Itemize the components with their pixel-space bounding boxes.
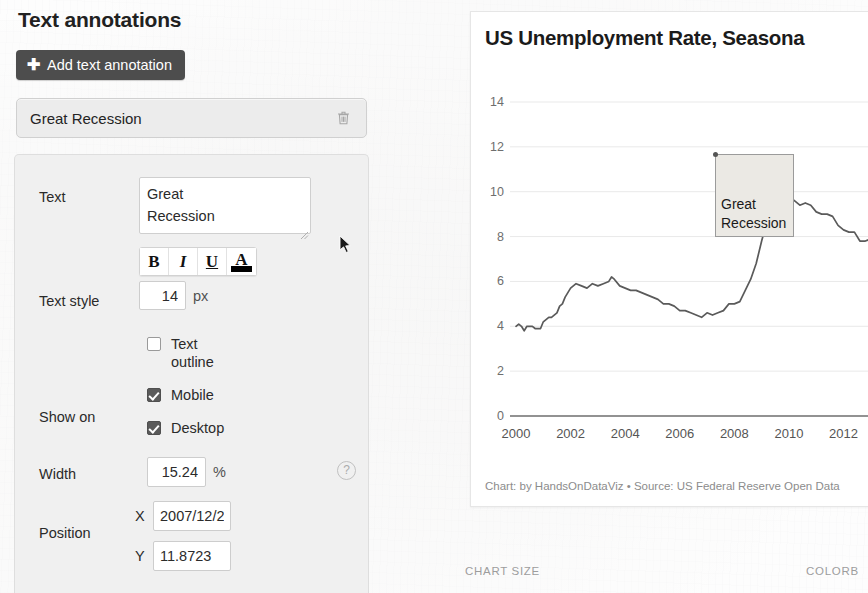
svg-text:10: 10 <box>490 185 504 199</box>
chart-preview-card: US Unemployment Rate, Seasona 0246810121… <box>470 11 868 507</box>
annotation-settings-form: Text Great Recession Text style <box>14 154 369 593</box>
add-text-annotation-button[interactable]: ✚ Add text annotation <box>16 50 185 80</box>
chart-title: US Unemployment Rate, Seasona <box>485 26 804 50</box>
font-size-input[interactable] <box>139 281 186 310</box>
desktop-label: Desktop <box>171 419 224 437</box>
chart-x-tick-labels: 2000200220042006200820102012 <box>502 426 858 441</box>
bold-icon: B <box>148 252 159 272</box>
underline-button[interactable]: U <box>198 248 227 275</box>
chart-gridlines <box>510 102 868 371</box>
width-input[interactable] <box>147 457 206 487</box>
position-label: Position <box>39 525 91 541</box>
annotation-item-label: Great Recession <box>30 110 142 127</box>
svg-text:2004: 2004 <box>611 426 640 441</box>
italic-button[interactable]: I <box>169 248 198 275</box>
colorblind-section-label: COLORB <box>806 565 859 577</box>
annotation-list: Great Recession <box>16 98 367 138</box>
text-field-wrapper: Great Recession <box>139 177 311 238</box>
text-color-button[interactable]: A <box>227 248 256 275</box>
width-wrapper: % <box>147 457 226 487</box>
show-on-desktop-row[interactable]: Desktop <box>147 419 224 437</box>
svg-text:6: 6 <box>497 274 504 288</box>
width-unit: % <box>213 464 226 480</box>
chart-size-section-label: CHART SIZE <box>465 565 540 577</box>
chart-text-annotation[interactable]: Great Recession <box>715 154 794 237</box>
svg-text:4: 4 <box>497 319 504 333</box>
chart-y-tick-labels: 02468101214 <box>490 95 504 423</box>
bold-button[interactable]: B <box>140 248 169 275</box>
add-text-annotation-label: Add text annotation <box>47 57 172 73</box>
text-style-toolbar: B I U A <box>139 247 257 276</box>
chart-annotation-text: Great Recession <box>721 196 786 231</box>
text-input[interactable]: Great Recession <box>139 177 311 234</box>
svg-text:8: 8 <box>497 230 504 244</box>
trash-icon[interactable] <box>337 111 350 125</box>
svg-text:12: 12 <box>490 140 504 154</box>
svg-text:0: 0 <box>497 409 504 423</box>
color-swatch[interactable] <box>231 266 252 272</box>
question-mark-icon[interactable]: ? <box>337 461 356 480</box>
mobile-checkbox[interactable] <box>147 388 161 402</box>
font-size-wrapper: px <box>139 281 208 310</box>
text-outline-label: Text outline <box>171 335 214 371</box>
app-screen: Text annotations ✚ Add text annotation G… <box>0 0 868 593</box>
font-size-unit: px <box>193 288 208 304</box>
text-outline-checkbox-row[interactable]: Text outline <box>147 335 214 371</box>
desktop-checkbox[interactable] <box>147 421 161 435</box>
underline-icon: U <box>206 252 218 272</box>
annotation-drag-handle[interactable] <box>713 152 718 157</box>
position-y-letter: Y <box>135 548 145 564</box>
position-x-letter: X <box>135 508 145 524</box>
svg-text:2010: 2010 <box>774 426 803 441</box>
chart-caption: Chart: by HandsOnDataViz • Source: US Fe… <box>485 480 840 492</box>
svg-text:2006: 2006 <box>665 426 694 441</box>
mouse-cursor-icon <box>339 235 352 254</box>
svg-text:14: 14 <box>490 95 504 109</box>
svg-text:2012: 2012 <box>829 426 858 441</box>
chart-series-line <box>516 194 868 331</box>
plus-icon: ✚ <box>27 57 40 73</box>
mobile-label: Mobile <box>171 386 214 404</box>
show-on-label: Show on <box>39 409 95 425</box>
svg-text:2002: 2002 <box>556 426 585 441</box>
position-x-row: X <box>135 501 231 531</box>
text-label: Text <box>39 189 66 205</box>
page-title: Text annotations <box>18 8 181 32</box>
show-on-mobile-row[interactable]: Mobile <box>147 386 214 404</box>
unemployment-line-chart: 02468101214 2000200220042006200820102012 <box>471 84 868 454</box>
text-outline-checkbox[interactable] <box>147 337 161 351</box>
svg-text:2008: 2008 <box>720 426 749 441</box>
position-y-input[interactable] <box>153 541 231 571</box>
svg-text:2000: 2000 <box>502 426 531 441</box>
position-y-row: Y <box>135 541 231 571</box>
list-item[interactable]: Great Recession <box>16 98 367 138</box>
text-annotations-panel: Text annotations ✚ Add text annotation G… <box>0 0 420 593</box>
svg-text:2: 2 <box>497 364 504 378</box>
position-x-input[interactable] <box>153 501 231 531</box>
italic-icon: I <box>180 252 187 272</box>
width-label: Width <box>39 466 76 482</box>
text-style-label: Text style <box>39 293 99 309</box>
